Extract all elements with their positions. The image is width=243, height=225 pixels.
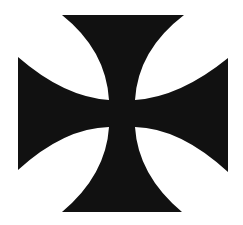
cross-shape: [18, 15, 228, 212]
cross-pattee-icon: [0, 0, 243, 225]
image-canvas: [0, 0, 243, 225]
